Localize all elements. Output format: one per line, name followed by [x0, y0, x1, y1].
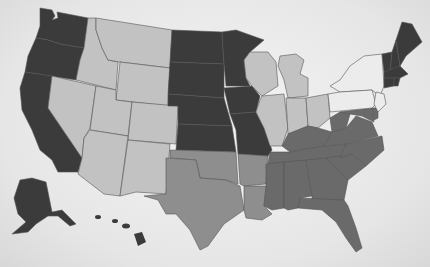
us-map — [0, 0, 430, 267]
state-arizona[interactable] — [78, 130, 128, 196]
state-north-dakota[interactable] — [170, 30, 224, 64]
state-maine[interactable] — [396, 22, 422, 66]
state-kansas[interactable] — [176, 124, 236, 152]
state-arkansas[interactable] — [238, 154, 268, 186]
state-alaska[interactable] — [12, 178, 76, 234]
state-ohio[interactable] — [306, 94, 330, 128]
state-wyoming[interactable] — [116, 62, 170, 106]
state-rhode-island[interactable] — [394, 78, 400, 86]
state-florida[interactable] — [298, 198, 362, 252]
state-new-york[interactable] — [330, 54, 384, 96]
state-connecticut[interactable] — [384, 78, 394, 88]
state-michigan[interactable] — [278, 54, 308, 98]
state-colorado[interactable] — [128, 102, 178, 144]
state-mississippi[interactable] — [264, 162, 284, 210]
state-new-mexico[interactable] — [120, 140, 170, 196]
state-hawaii[interactable] — [95, 215, 146, 246]
state-iowa[interactable] — [224, 86, 260, 114]
us-map-svg — [0, 0, 430, 267]
state-south-dakota[interactable] — [168, 62, 224, 98]
